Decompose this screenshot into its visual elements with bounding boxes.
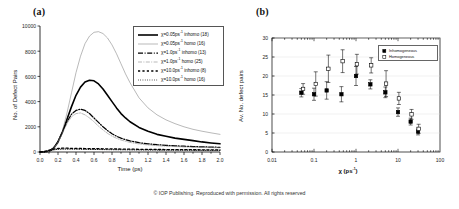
legend-item: χ=1.0ps-1 inhomo (13) bbox=[137, 48, 221, 57]
legend-item: χ=10.0ps-1 inhomo (8) bbox=[137, 66, 221, 75]
panel-b-x-tick: 10 bbox=[388, 157, 408, 163]
panel-b-y-tick: 0 bbox=[246, 149, 268, 155]
panel-b-x-tick: 1 bbox=[346, 157, 366, 163]
panel-a: (a) No. of Defect Pairs Time (ps) χ=0.05… bbox=[0, 0, 228, 182]
panel-b-x-tick: 0.1 bbox=[304, 157, 324, 163]
panel-b-y-tick: 5 bbox=[246, 130, 268, 136]
panel-b-y-tick: 20 bbox=[246, 73, 268, 79]
data-point bbox=[325, 82, 329, 99]
panel-b-x-tick: 100 bbox=[430, 157, 450, 163]
legend-item-label: χ=1.0ps-1 inhomo (13) bbox=[161, 50, 206, 55]
panel-b-y-tick: 30 bbox=[246, 35, 268, 41]
panel-a-x-tick: 2.0 bbox=[211, 157, 229, 163]
legend-item: Homogeneous bbox=[381, 54, 435, 60]
panel-b-x-tick: 0.01 bbox=[262, 157, 282, 163]
copyright-footer: © IOP Publishing. Reproduced with permis… bbox=[0, 190, 459, 196]
panel-a-x-tick: 0.8 bbox=[103, 157, 121, 163]
figure-container: (a) No. of Defect Pairs Time (ps) χ=0.05… bbox=[0, 0, 459, 209]
legend-item: χ=0.05ps-1 homo (16) bbox=[137, 39, 221, 48]
panel-a-y-tick: 0 bbox=[4, 149, 36, 155]
panel-a-y-tick: 6000 bbox=[4, 74, 36, 80]
data-point bbox=[341, 50, 345, 73]
panel-b-y-tick: 15 bbox=[246, 92, 268, 98]
panel-a-x-tick: 0.0 bbox=[31, 157, 49, 163]
legend-item-label: Homogeneous bbox=[389, 55, 414, 59]
legend-line-swatch bbox=[137, 58, 159, 66]
data-point bbox=[397, 92, 401, 104]
legend-item: χ=0.05ps-1 inhomo (18) bbox=[137, 30, 221, 39]
legend-item-label: χ=10.0ps-1 homo (16) bbox=[161, 77, 205, 82]
panel-a-y-tick: 4000 bbox=[4, 99, 36, 105]
legend-marker-swatch bbox=[381, 54, 388, 60]
legend-line-swatch bbox=[137, 76, 159, 84]
legend-item-label: χ=10.0ps-1 inhomo (8) bbox=[161, 68, 206, 73]
legend-item: χ=1.0ps-1 homo (25) bbox=[137, 57, 221, 66]
panel-a-x-tick: 1.0 bbox=[121, 157, 139, 163]
panel-a-x-tick: 1.2 bbox=[139, 157, 157, 163]
data-point bbox=[339, 87, 343, 102]
legend-item: χ=10.0ps-1 homo (16) bbox=[137, 75, 221, 84]
legend-item-label: Inhomogeneous bbox=[389, 49, 417, 53]
legend-item-label: χ=1.0ps-1 homo (25) bbox=[161, 59, 203, 64]
legend-item-label: χ=0.05ps-1 homo (16) bbox=[161, 41, 205, 46]
panel-a-x-tick: 0.4 bbox=[67, 157, 85, 163]
panel-a-y-tick: 8000 bbox=[4, 49, 36, 55]
panel-a-y-tick: 2000 bbox=[4, 124, 36, 130]
panel-a-x-tick: 0.6 bbox=[85, 157, 103, 163]
data-point bbox=[354, 67, 358, 86]
panel-b-legend: InhomogeneousHomogeneous bbox=[378, 45, 438, 61]
data-point bbox=[326, 55, 330, 82]
data-point bbox=[410, 109, 414, 119]
panel-a-legend: χ=0.05ps-1 inhomo (18)χ=0.05ps-1 homo (1… bbox=[133, 26, 224, 86]
legend-line-swatch bbox=[137, 40, 159, 48]
legend-line-swatch bbox=[137, 67, 159, 75]
data-point bbox=[368, 80, 372, 89]
panel-a-x-tick: 1.4 bbox=[157, 157, 175, 163]
panel-a-x-tick: 1.8 bbox=[193, 157, 211, 163]
panel-b-y-tick: 25 bbox=[246, 54, 268, 60]
data-point bbox=[383, 87, 387, 98]
panel-b-y-tick: 10 bbox=[246, 111, 268, 117]
data-point bbox=[396, 108, 400, 116]
legend-line-swatch bbox=[137, 49, 159, 57]
data-point bbox=[369, 58, 373, 73]
legend-line-swatch bbox=[137, 31, 159, 39]
panel-a-x-tick: 0.2 bbox=[49, 157, 67, 163]
panel-b: (b) Av. No. defect pairs χ (ps-1) Inhomo… bbox=[228, 0, 459, 182]
panel-a-y-tick: 10000 bbox=[4, 23, 36, 29]
legend-item-label: χ=0.05ps-1 inhomo (18) bbox=[161, 32, 209, 37]
panel-a-x-tick: 1.6 bbox=[175, 157, 193, 163]
data-point bbox=[312, 88, 316, 100]
data-point bbox=[355, 54, 359, 74]
